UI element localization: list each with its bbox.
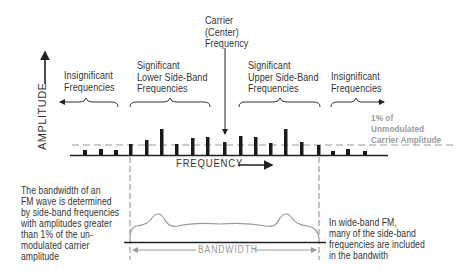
fm-spectrum-diagram (0, 0, 459, 278)
range-braces (60, 98, 384, 107)
bandwidth-envelope-curve (130, 214, 319, 238)
